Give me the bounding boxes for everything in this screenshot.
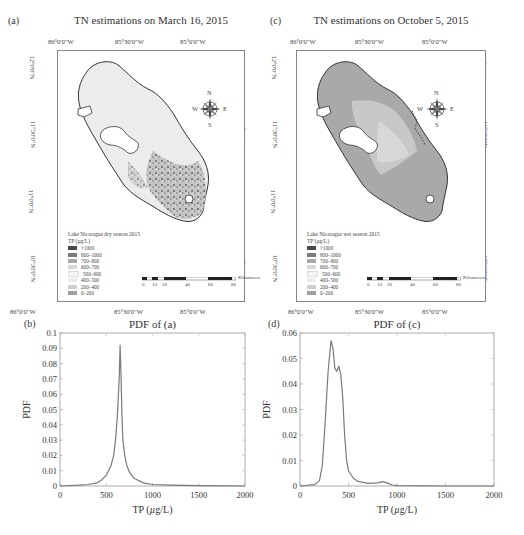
y-tick-label: 0.05 [42,405,57,415]
y-tick-label: 0.04 [42,420,58,430]
scale-unit-c: Kilometers [463,275,485,280]
x-tick-label: 1000 [144,490,161,500]
lon-tick-bottom-a-2: 85°0'0"W [180,308,206,315]
x-axis-label: TP (µg/L) [377,504,417,516]
legend-label: 400–500 [81,277,99,283]
legend-label: >1000 [81,245,94,251]
lon-tick-top-a-1: 85°30'0"W [115,38,144,45]
x-tick-label: 0 [298,490,302,500]
scale-bar-c: Kilometers 0 10 20 40 60 80 [367,277,477,291]
lat-tick-left-a-1: 11°30'0"N [30,121,37,148]
lat-tick-left-c-1: 11°30'0"N [272,121,279,148]
legend-label: 0–200 [320,290,333,296]
legend-swatch [68,291,77,295]
compass-n-c: N [434,89,439,96]
lon-tick-top-c-1: 85°30'0"W [355,38,384,45]
legend-swatch [68,271,79,277]
legend-label: 600–700 [320,264,338,270]
legend-label: 400–500 [320,277,338,283]
scale-tick: 80 [231,282,236,287]
legend-unit-a: TP (µg/L) [68,238,158,245]
legend-label: 500–600 [322,271,340,277]
legend-swatch [68,285,77,289]
y-tick-label: 0 [293,481,297,491]
compass-w-a: W [192,105,198,112]
scale-unit-a: Kilometers [238,275,260,280]
y-tick-label: 0.02 [282,430,297,440]
y-tick-label: 0.04 [282,379,298,389]
legend-swatch [68,246,77,250]
y-tick-label: 0.01 [42,466,57,476]
compass-rose-a: N S E W [190,89,230,129]
map-title-a: TN estimations on March 16, 2015 [57,14,245,26]
legend-label: 800–1000 [320,252,341,258]
legend-swatch [307,253,316,257]
panel-label-a: (a) [8,15,19,26]
map-frame-a: N S E W Lake Nicaragua dry season 2015 T… [57,50,245,302]
legend-label: 500–600 [83,271,101,277]
scale-tick: 20 [162,282,167,287]
lon-tick-top-a-0: 86°0'0"W [48,38,74,45]
lon-tick-bottom-c-2: 85°0'0"W [422,308,448,315]
map-title-c: TN estimations on October 5, 2015 [296,14,486,26]
pdf-curve [60,345,245,486]
scale-bar-graphic [142,277,236,281]
legend-title-c: Lake Nicaragua wet season 2015 [307,231,397,238]
legend-swatch [68,265,77,269]
lat-tick-left-a-0: 12°0'0"N [29,55,36,79]
pdf-curve [300,341,494,486]
compass-e-c: E [450,105,454,112]
y-tick-label: 0.07 [42,374,57,384]
lat-tick-left-a-3: 10°30'0"N [30,255,37,282]
lat-tick-left-a-2: 11°0'0"N [28,190,35,214]
pdf-chart-d: 00.010.020.030.040.050.06050010001500200… [262,325,524,535]
scale-tick: 20 [387,282,392,287]
y-tick-label: 0.1 [46,328,57,338]
legend-swatch [307,265,316,269]
x-tick-label: 1500 [190,490,207,500]
x-tick-label: 500 [100,490,113,500]
lon-tick-top-c-2: 85°0'0"W [422,38,448,45]
lon-tick-bottom-a-1: 85°30'0"W [114,308,143,315]
y-tick-label: 0.03 [42,435,57,445]
y-axis-label: PDF [21,400,32,419]
legend-swatch [307,285,316,289]
legend-label: 200–400 [320,284,338,290]
y-tick-label: 0.05 [282,354,297,364]
legend-swatch [68,278,77,282]
lat-tick-left-c-2: 11°0'0"N [270,190,277,214]
x-tick-label: 1500 [437,490,454,500]
panel-label-c: (c) [270,15,281,26]
compass-n-a: N [207,89,212,96]
x-tick-label: 500 [342,490,355,500]
legend-unit-c: TP (µg/L) [307,238,397,245]
legend-swatch [307,291,316,295]
legend-label: 800–1000 [81,252,102,258]
legend-label: 700–800 [320,258,338,264]
scale-tick: 80 [456,282,461,287]
scale-bar-graphic [367,277,461,281]
y-tick-label: 0.06 [42,389,57,399]
legend-swatch [307,259,316,263]
compass-w-c: W [417,105,423,112]
plot-frame [60,333,245,486]
scale-tick: 60 [208,282,213,287]
legend-label: 700–800 [81,258,99,264]
scale-bar-a: Kilometers 0 10 20 40 60 80 [142,277,242,291]
legend-title-a: Lake Nicaragua dry season 2015 [68,231,158,238]
lon-tick-top-a-2: 85°0'0"W [180,38,206,45]
lon-tick-bottom-c-1: 85°30'0"W [355,308,384,315]
y-tick-label: 0.06 [282,328,297,338]
scale-tick: 60 [433,282,438,287]
compass-s-a: S [208,121,212,128]
scale-tick: 40 [185,282,190,287]
lat-tick-left-c-3: 10°30'0"N [272,255,279,282]
y-tick-label: 0 [53,481,57,491]
legend-swatch [68,259,77,263]
x-tick-label: 1000 [389,490,406,500]
lat-tick-left-c-0: 12°0'0"N [271,55,278,79]
y-tick-label: 0.03 [282,405,297,415]
y-tick-label: 0.01 [282,456,297,466]
compass-e-a: E [223,105,227,112]
x-tick-label: 2000 [486,490,503,500]
